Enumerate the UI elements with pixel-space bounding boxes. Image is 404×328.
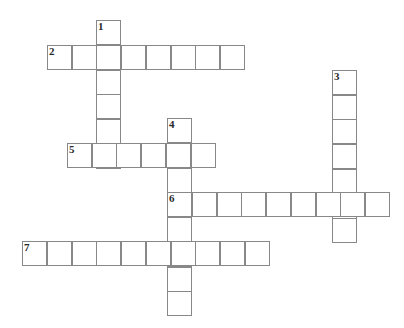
crossword-cell[interactable] xyxy=(191,143,216,168)
crossword-cell[interactable] xyxy=(96,241,121,266)
crossword-cell[interactable] xyxy=(141,143,166,168)
crossword-cell[interactable] xyxy=(365,192,390,217)
crossword-cell[interactable] xyxy=(167,217,192,242)
crossword-cell[interactable] xyxy=(332,169,357,194)
crossword-cell[interactable] xyxy=(47,241,72,266)
crossword-cell[interactable] xyxy=(332,95,357,120)
crossword-cell[interactable] xyxy=(167,192,192,217)
crossword-cell[interactable] xyxy=(167,267,192,292)
crossword-cell[interactable] xyxy=(72,45,97,70)
crossword-cell[interactable] xyxy=(217,192,242,217)
crossword-cell[interactable] xyxy=(340,192,365,217)
crossword-cell[interactable] xyxy=(332,144,357,169)
crossword-cell[interactable] xyxy=(96,119,121,144)
crossword-puzzle: 1234567 xyxy=(0,0,404,328)
crossword-cell[interactable] xyxy=(121,241,146,266)
crossword-cell[interactable] xyxy=(195,241,220,266)
crossword-cell[interactable] xyxy=(72,241,97,266)
crossword-cell[interactable] xyxy=(22,241,47,266)
crossword-cell[interactable] xyxy=(116,143,141,168)
crossword-cell[interactable] xyxy=(220,45,245,70)
crossword-cell[interactable] xyxy=(241,192,266,217)
crossword-cell[interactable] xyxy=(245,241,270,266)
crossword-cell[interactable] xyxy=(195,45,220,70)
crossword-cell[interactable] xyxy=(332,218,357,243)
crossword-cell[interactable] xyxy=(92,143,117,168)
crossword-cell[interactable] xyxy=(167,168,192,193)
crossword-cell[interactable] xyxy=(67,143,92,168)
crossword-cell[interactable] xyxy=(266,192,291,217)
crossword-cell[interactable] xyxy=(316,192,341,217)
crossword-cell[interactable] xyxy=(171,45,196,70)
crossword-cell[interactable] xyxy=(96,45,121,70)
crossword-cell[interactable] xyxy=(96,94,121,119)
crossword-cell[interactable] xyxy=(47,45,72,70)
crossword-cell[interactable] xyxy=(166,143,191,168)
crossword-cell[interactable] xyxy=(192,192,217,217)
crossword-cell[interactable] xyxy=(96,20,121,45)
crossword-cell[interactable] xyxy=(291,192,316,217)
crossword-cell[interactable] xyxy=(332,70,357,95)
crossword-cell[interactable] xyxy=(167,118,192,143)
crossword-cell[interactable] xyxy=(146,45,171,70)
crossword-cell[interactable] xyxy=(171,241,196,266)
crossword-cell[interactable] xyxy=(146,241,171,266)
crossword-cell[interactable] xyxy=(332,119,357,144)
crossword-grid: 1234567 xyxy=(0,0,404,328)
crossword-cell[interactable] xyxy=(167,291,192,316)
crossword-cell[interactable] xyxy=(96,70,121,95)
crossword-cell[interactable] xyxy=(121,45,146,70)
crossword-cell[interactable] xyxy=(220,241,245,266)
